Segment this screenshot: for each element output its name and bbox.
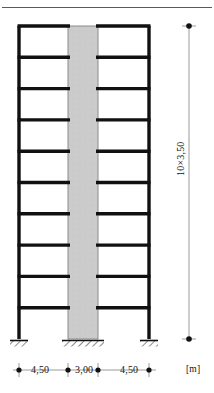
dimension-tick-marker	[95, 367, 100, 372]
dimension-label-left-bay: 4,50	[31, 365, 49, 375]
frame-drawing-canvas	[0, 0, 214, 393]
dimension-tick-marker	[186, 23, 192, 29]
dimension-unit-label: [m]	[186, 365, 200, 375]
vertical-dimension-line	[182, 23, 196, 342]
dimension-tick-marker	[65, 367, 70, 372]
support-left-column	[10, 341, 28, 347]
dimension-label-right-bay: 4,50	[120, 365, 138, 375]
support-right-column	[140, 341, 158, 347]
structural-frame-figure: 4,50 3,00 4,50 [m] 10×3,50	[0, 0, 214, 393]
dimension-tick-marker	[186, 336, 192, 342]
support-shear-wall	[62, 341, 104, 347]
dimension-label-total-height: 10×3,50	[176, 141, 186, 176]
dimension-tick-marker	[146, 367, 151, 372]
dimension-tick-marker	[16, 367, 21, 372]
dimension-label-shear-wall: 3,00	[75, 365, 93, 375]
shear-wall	[68, 26, 98, 339]
